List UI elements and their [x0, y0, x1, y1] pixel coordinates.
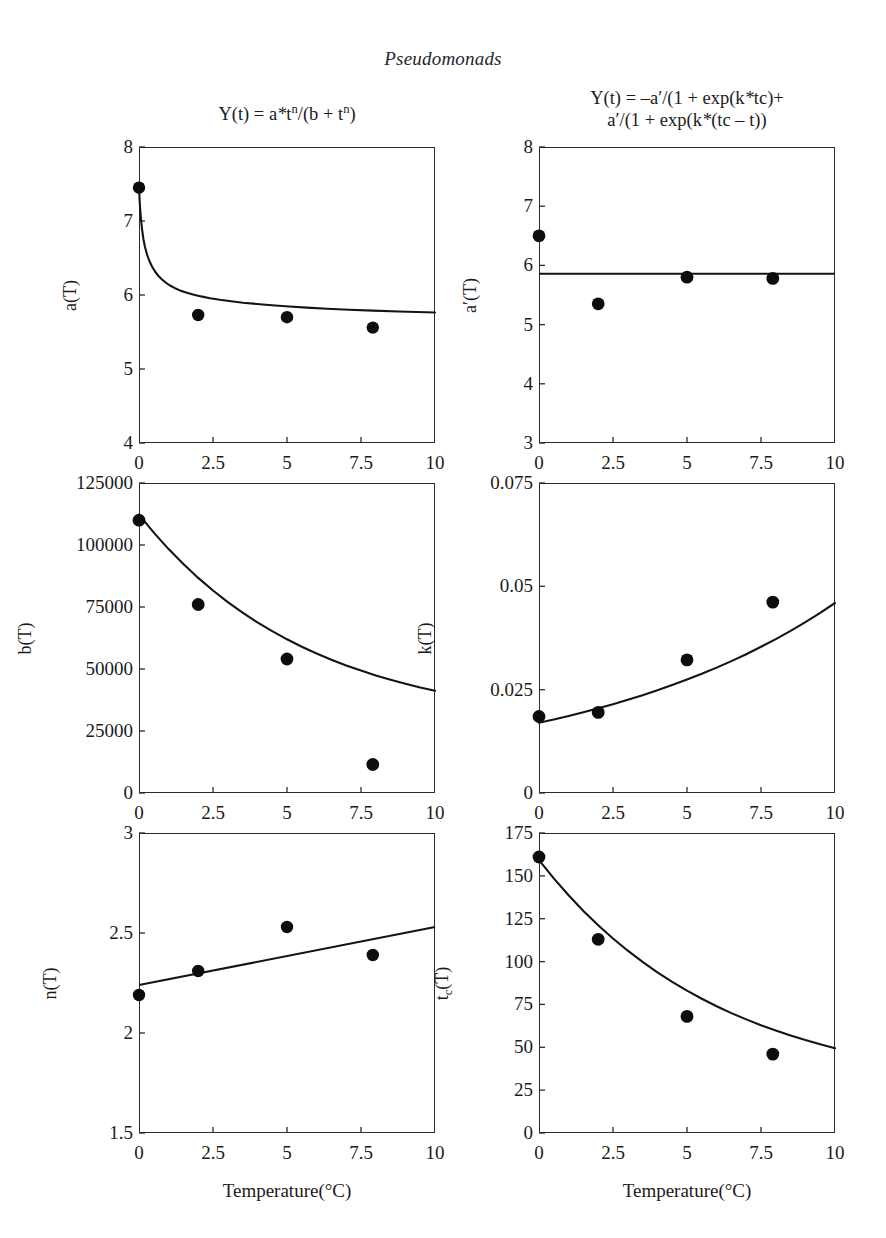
ytick-label: 2	[75, 1022, 133, 1044]
xtick-label: 10	[826, 1142, 845, 1164]
xtick-label: 7.5	[749, 452, 773, 474]
ytick-label: 8	[105, 136, 133, 158]
data-point	[592, 933, 605, 946]
ytick-label: 3	[505, 432, 533, 454]
axis-label-n-of-T: n(T)	[40, 954, 61, 1014]
ytick-label: 3	[75, 822, 133, 844]
ytick-label: 0.05	[435, 575, 533, 597]
ytick-label: 75000	[35, 596, 133, 618]
xtick-label: 2.5	[201, 1142, 225, 1164]
xtick-label: 7.5	[349, 1142, 373, 1164]
data-point	[367, 949, 379, 961]
data-point	[133, 989, 145, 1001]
ytick-label: 6	[505, 254, 533, 276]
data-point	[766, 1048, 779, 1061]
data-point	[192, 965, 204, 977]
ytick-label: 0	[435, 782, 533, 804]
ytick-label: 150	[465, 865, 533, 887]
ytick-label: 25000	[35, 720, 133, 742]
data-point	[281, 921, 293, 933]
ytick-label: 50000	[35, 658, 133, 680]
xtick-label: 10	[826, 452, 845, 474]
plot-tc-of-T	[539, 833, 835, 1133]
data-point	[766, 272, 779, 285]
xtick-label: 0	[134, 1142, 144, 1164]
xtick-label: 0	[534, 802, 544, 824]
xtick-label: 10	[426, 452, 445, 474]
ytick-label: 100000	[35, 534, 133, 556]
xtick-label: 5	[682, 802, 692, 824]
axis-label-aprime-of-T: a′(T)	[460, 266, 481, 326]
axis-label-temperature: Temperature(°C)	[223, 1180, 352, 1202]
xtick-label: 5	[282, 802, 292, 824]
xtick-label: 5	[282, 452, 292, 474]
ytick-label: 8	[505, 136, 533, 158]
ytick-label: 50	[465, 1036, 533, 1058]
plot-a-of-T	[139, 147, 435, 443]
axis-label-tc-of-T: tc(T)	[432, 954, 453, 1014]
ytick-label: 175	[465, 822, 533, 844]
ytick-label: 25	[465, 1079, 533, 1101]
ytick-label: 7	[105, 210, 133, 232]
axis-label-temperature: Temperature(°C)	[623, 1180, 752, 1202]
xtick-label: 0	[134, 802, 144, 824]
xtick-label: 2.5	[201, 452, 225, 474]
xtick-label: 2.5	[601, 1142, 625, 1164]
ytick-label: 4	[105, 432, 133, 454]
xtick-label: 7.5	[349, 452, 373, 474]
data-point	[592, 706, 605, 719]
xtick-label: 0	[134, 452, 144, 474]
data-point	[133, 182, 145, 194]
ytick-label: 5	[505, 314, 533, 336]
right-model-equation: Y(t) = –a′/(1 + exp(k*tc)+ a′/(1 + exp(k…	[539, 88, 835, 132]
data-point	[281, 311, 293, 323]
ytick-label: 5	[105, 358, 133, 380]
xtick-label: 2.5	[601, 802, 625, 824]
axis-label-k-of-T: k(T)	[415, 609, 436, 669]
ytick-label: 2.5	[75, 922, 133, 944]
xtick-label: 0	[534, 452, 544, 474]
xtick-label: 10	[426, 802, 445, 824]
xtick-label: 7.5	[749, 802, 773, 824]
left-model-equation: Y(t) = a*tn/(b + tn)	[139, 104, 435, 126]
data-point	[681, 654, 694, 667]
data-point	[592, 297, 605, 310]
plot-k-of-T	[539, 483, 835, 793]
data-point	[281, 653, 294, 666]
xtick-label: 10	[826, 802, 845, 824]
ytick-label: 0	[35, 782, 133, 804]
ytick-label: 75	[465, 993, 533, 1015]
ytick-label: 0	[465, 1122, 533, 1144]
ytick-label: 7	[505, 195, 533, 217]
data-point	[133, 514, 146, 527]
ytick-label: 125000	[35, 472, 133, 494]
xtick-label: 7.5	[349, 802, 373, 824]
ytick-label: 0.025	[435, 679, 533, 701]
ytick-label: 1.5	[75, 1122, 133, 1144]
axis-label-b-of-T: b(T)	[15, 609, 36, 669]
data-point	[533, 229, 546, 242]
figure-pseudomonads: Pseudomonads Y(t) = a*tn/(b + tn) a(T) =…	[0, 0, 886, 1238]
ytick-label: 0.075	[435, 472, 533, 494]
ytick-label: 125	[465, 908, 533, 930]
plot-b-of-T	[139, 483, 435, 793]
xtick-label: 5	[282, 1142, 292, 1164]
data-point	[533, 710, 546, 723]
data-point	[533, 851, 546, 864]
xtick-label: 0	[534, 1142, 544, 1164]
data-point	[192, 598, 205, 611]
ytick-label: 6	[105, 284, 133, 306]
xtick-label: 2.5	[601, 452, 625, 474]
page-title: Pseudomonads	[0, 48, 886, 70]
xtick-label: 2.5	[201, 802, 225, 824]
xtick-label: 5	[682, 1142, 692, 1164]
data-point	[766, 596, 779, 609]
xtick-label: 7.5	[749, 1142, 773, 1164]
data-point	[367, 321, 379, 333]
plot-n-of-T	[139, 833, 435, 1133]
ytick-label: 4	[505, 373, 533, 395]
data-point	[192, 309, 204, 321]
plot-aprime-of-T	[539, 147, 835, 443]
data-point	[681, 271, 694, 284]
xtick-label: 5	[682, 452, 692, 474]
